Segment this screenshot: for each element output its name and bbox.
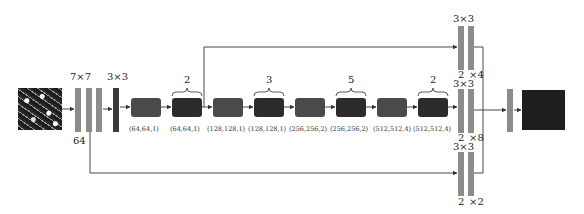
head-bar [458,89,464,133]
block-label: (512,512,4) [373,126,411,133]
head-kernel-label: 3×3 [453,79,474,89]
block-label: (256,256,2) [289,126,327,133]
block-label: (512,512,4) [413,126,451,133]
block-label: (64,64,1) [129,126,159,133]
repeat-count: 3 [266,75,272,85]
residual-block [377,98,407,117]
residual-block [336,98,366,117]
head-kernel-label: 3×3 [453,142,474,152]
residual-block [254,98,284,117]
block-label: (64,64,1) [170,126,200,133]
head-right-label: ×2 [469,197,484,207]
repeat-count: 2 [430,75,436,85]
stem-bar [96,88,102,132]
residual-block [295,98,325,117]
head-bar [458,26,464,70]
residual-block [418,98,448,117]
final-conv-bar [507,89,513,132]
head-bar [468,26,474,70]
pool-bar [113,88,119,132]
stem-bar [75,88,81,132]
head-bar [468,152,474,196]
head-left-label: 2 [458,197,464,207]
block-label: (128,128,1) [207,126,245,133]
head-bar [458,152,464,196]
stem-kernel-label: 7×7 [70,72,91,82]
input-texture-image [18,88,62,130]
block-label: (256,256,2) [330,126,368,133]
repeat-count: 2 [184,75,190,85]
head-kernel-label: 3×3 [453,14,474,24]
residual-block [172,98,202,117]
head-bar [468,89,474,133]
output-map [522,90,565,130]
stem-bar [86,88,92,132]
pool-kernel-label: 3×3 [107,72,128,82]
block-label: (128,128,1) [248,126,286,133]
repeat-count: 5 [348,75,354,85]
residual-block [213,98,243,117]
stem-channels-label: 64 [73,136,86,146]
residual-block [131,98,161,117]
